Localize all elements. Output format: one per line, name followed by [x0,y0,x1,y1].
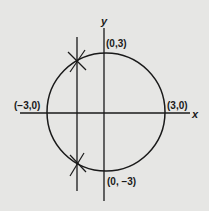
diagram-canvas: y x (0,3) (0, −3) (−3,0) (3,0) [0,0,209,211]
point-right-label: (3,0) [167,100,188,111]
point-bottom-label: (0, −3) [107,176,136,187]
y-axis-label: y [100,15,108,27]
point-left-label: (−3,0) [14,100,40,111]
point-top-label: (0,3) [106,38,127,49]
circle [47,53,165,171]
x-axis-label: x [191,108,199,120]
